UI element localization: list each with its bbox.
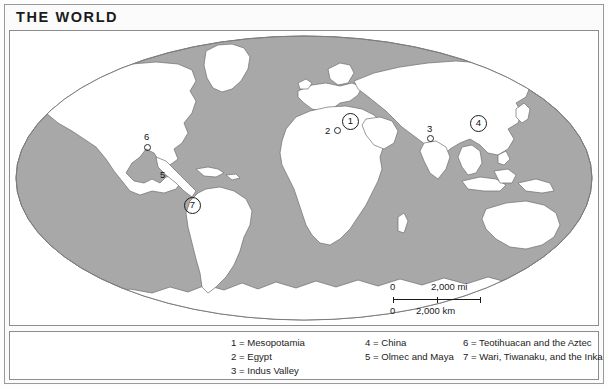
map-marker-7-wari-tiwanaku-inka: 7 [184, 197, 201, 214]
legend-item-1: 1 = Mesopotamia [231, 336, 305, 350]
legend-column-2: 4 = China 5 = Olmec and Maya [365, 336, 454, 364]
scale-bar-line [393, 297, 481, 303]
map-marker-3-indus-valley: 3 [427, 124, 432, 134]
legend-item-7: 7 = Wari, Tiwanaku, and the Inka [463, 350, 603, 364]
scale-miles-row: 0 2,000 mi [389, 281, 501, 294]
map-marker-4-china: 4 [470, 115, 487, 132]
landmass-alaska [28, 79, 70, 97]
scale-tick-end [480, 297, 481, 303]
map-marker-6-teotihuacan-aztec: 6 [144, 132, 149, 142]
scale-miles-zero: 0 [390, 281, 395, 292]
map-marker-2-egypt: 2 [325, 126, 330, 136]
map-panel: 1 2 3 4 5 6 7 0 2,000 mi 0 2,000 km [9, 30, 599, 326]
map-marker-6-site-dot [144, 144, 151, 151]
world-map-figure: THE WORLD [0, 0, 608, 388]
map-marker-1-mesopotamia: 1 [342, 113, 359, 130]
map-marker-2-site-dot [334, 127, 341, 134]
legend-item-3: 3 = Indus Valley [231, 364, 305, 378]
map-scale-bar: 0 2,000 mi 0 2,000 km [389, 281, 501, 323]
legend-item-4: 4 = China [365, 336, 454, 350]
scale-tick-start [393, 297, 394, 303]
scale-kilometers-row: 0 2,000 km [389, 305, 501, 318]
map-marker-5-olmec-maya: 5 [160, 170, 165, 180]
scale-kilometers-zero: 0 [390, 305, 395, 316]
landmass-new-zealand [570, 237, 586, 255]
figure-title: THE WORLD [16, 9, 118, 25]
legend-column-3: 6 = Teotihuacan and the Aztec 7 = Wari, … [463, 336, 603, 364]
legend-item-5: 5 = Olmec and Maya [365, 350, 454, 364]
scale-kilometers-value: 2,000 km [416, 305, 455, 316]
legend-item-2: 2 = Egypt [231, 350, 305, 364]
scale-miles-value: 2,000 mi [431, 281, 467, 292]
legend-item-6: 6 = Teotihuacan and the Aztec [463, 336, 603, 350]
scale-tick-mid [437, 297, 438, 303]
world-map-graphic [10, 31, 598, 325]
map-marker-3-site-dot [427, 135, 434, 142]
map-legend: 1 = Mesopotamia 2 = Egypt 3 = Indus Vall… [9, 331, 599, 380]
legend-column-1: 1 = Mesopotamia 2 = Egypt 3 = Indus Vall… [231, 336, 305, 378]
